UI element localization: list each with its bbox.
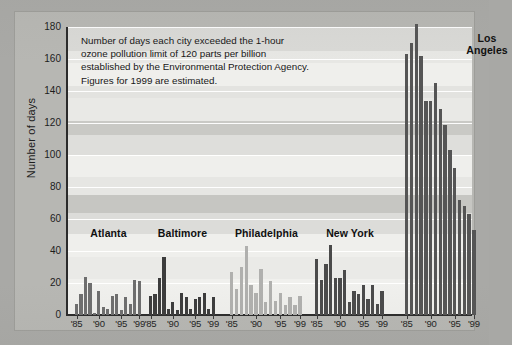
bar: [93, 313, 96, 315]
bar: [419, 56, 422, 315]
x-tick-mark: [77, 315, 78, 319]
bar: [264, 302, 267, 315]
x-tick-label: '99: [371, 318, 393, 329]
bar: [371, 285, 374, 315]
caption-line-1: Number of days each city exceeded the 1-…: [81, 34, 401, 47]
x-tick-label: '90: [329, 318, 351, 329]
gridline: [67, 27, 472, 28]
bar: [230, 272, 233, 315]
group-label-los-angeles-line1: Los: [478, 32, 497, 44]
x-tick-label: '90: [420, 318, 442, 329]
bar: [180, 293, 183, 315]
bar: [380, 291, 383, 315]
bar: [158, 278, 161, 315]
bar: [235, 289, 238, 315]
x-tick-label: '90: [162, 318, 184, 329]
bar: [343, 270, 346, 315]
y-tick-label: 40: [15, 246, 61, 256]
bar: [329, 245, 332, 315]
x-tick-mark: [232, 315, 233, 319]
y-tick-label: 100: [15, 150, 61, 160]
x-tick-mark: [431, 315, 432, 319]
x-tick-mark: [173, 315, 174, 319]
bar: [288, 297, 291, 315]
y-tick-label: 180: [15, 22, 61, 32]
bar: [245, 246, 248, 315]
x-tick-mark: [407, 315, 408, 319]
bar: [415, 24, 418, 315]
chart-plate: Number of days 020406080100120140160180 …: [15, 12, 474, 330]
bar: [124, 297, 127, 315]
bar: [448, 150, 451, 315]
bar: [362, 285, 365, 315]
bar: [149, 296, 152, 315]
group-label-los-angeles: Los Angeles: [455, 32, 512, 56]
bar: [207, 309, 210, 315]
bar: [274, 301, 277, 315]
bar: [97, 291, 100, 315]
x-tick-mark: [256, 315, 257, 319]
bar: [254, 293, 257, 315]
bar: [463, 206, 466, 315]
x-tick-label: '85: [396, 318, 418, 329]
x-tick-label: '90: [88, 318, 110, 329]
x-tick-mark: [340, 315, 341, 319]
bar: [162, 257, 165, 315]
x-tick-label: '85: [140, 318, 162, 329]
group-label-baltimore: Baltimore: [138, 227, 228, 239]
bar: [439, 109, 442, 315]
bar: [467, 214, 470, 315]
bar: [357, 294, 360, 315]
bar: [472, 230, 475, 315]
bar: [352, 291, 355, 315]
y-tick-label: 140: [15, 86, 61, 96]
bar: [315, 259, 318, 315]
bar: [366, 299, 369, 315]
group-label-philadelphia: Philadelphia: [222, 227, 312, 239]
x-tick-mark: [363, 315, 364, 319]
bar: [212, 297, 215, 315]
bar: [185, 297, 188, 315]
bar: [198, 297, 201, 315]
y-tick-label: 160: [15, 54, 61, 64]
y-axis-title: Number of days: [25, 78, 37, 198]
caption-line-3: established by the Environmental Protect…: [81, 60, 401, 73]
bar: [284, 305, 287, 315]
bar: [167, 309, 170, 315]
bar: [240, 267, 243, 315]
x-tick-label: '99: [463, 318, 485, 329]
bar: [434, 83, 437, 315]
bar: [194, 299, 197, 315]
x-tick-label: '85: [221, 318, 243, 329]
x-tick-label: '85: [306, 318, 328, 329]
x-tick-mark: [121, 315, 122, 319]
y-tick-label: 20: [15, 278, 61, 288]
bar: [320, 280, 323, 315]
y-tick-label: 0: [15, 310, 61, 320]
bar: [153, 294, 156, 315]
x-tick-mark: [213, 315, 214, 319]
bar: [133, 280, 136, 315]
bar: [324, 264, 327, 315]
x-tick-mark: [455, 315, 456, 319]
bar: [171, 302, 174, 315]
bar: [79, 294, 82, 315]
bar: [249, 285, 252, 315]
bar: [348, 302, 351, 315]
group-label-new-york: New York: [305, 227, 395, 239]
bar: [443, 125, 446, 315]
bar: [298, 296, 301, 315]
y-tick-label: 60: [15, 214, 61, 224]
x-tick-label: '85: [66, 318, 88, 329]
bar: [410, 43, 413, 315]
bar: [75, 304, 78, 315]
bar: [269, 281, 272, 315]
group-label-los-angeles-line2: Angeles: [466, 44, 508, 56]
bar: [176, 310, 179, 315]
x-tick-mark: [99, 315, 100, 319]
bar: [84, 277, 87, 315]
bar: [279, 293, 282, 315]
bar: [106, 309, 109, 315]
bar: [120, 310, 123, 315]
